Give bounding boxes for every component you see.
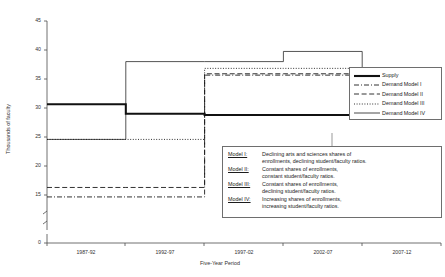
faculty-supply-demand-chart: 45 40 35 30 25 20 15 0 1987-92 1992-97 1…	[0, 0, 445, 277]
model-definitions-box: Model I: Declining arts and sciences sha…	[222, 146, 442, 218]
legend-swatch-solid-thick	[353, 72, 381, 80]
y-tick-45: 45	[27, 18, 41, 23]
note-text-model-ii: Constant shares of enrollments, constant…	[262, 166, 338, 181]
y-tick-25: 25	[27, 134, 41, 139]
legend-item-supply: Supply	[353, 71, 438, 80]
x-axis-title: Five-Year Period	[160, 260, 280, 266]
note-text-model-iv: Increasing shares of enrollments, increa…	[262, 196, 341, 211]
legend-label-demand-model-iv: Demand Model IV	[381, 111, 425, 116]
note-row-model-i: Model I: Declining arts and sciences sha…	[228, 151, 437, 166]
legend-label-demand-model-iii: Demand Model III	[381, 101, 425, 106]
y-axis-title: Thousands of faculty	[5, 93, 11, 165]
y-tick-15: 15	[27, 192, 41, 197]
x-tick-2002-07: 2002-07	[300, 250, 346, 255]
legend-label-demand-model-ii: Demand Model II	[381, 92, 423, 97]
legend-swatch-solid-thin	[353, 109, 381, 117]
x-tick-1987-92: 1987-92	[63, 250, 109, 255]
x-tick-2007-12: 2007-12	[379, 250, 425, 255]
note-key-model-i: Model I:	[228, 151, 262, 158]
note-line-1: Declining arts and sciences shares of	[262, 151, 367, 158]
legend-swatch-dashed	[353, 90, 381, 98]
y-axis-break-mark	[43, 211, 47, 224]
legend: Supply Demand Model I Demand Model II	[349, 67, 442, 120]
note-line-1: Increasing shares of enrollments,	[262, 196, 341, 203]
note-line-2: constant student/faculty ratios.	[262, 173, 338, 180]
plot-area	[0, 0, 445, 277]
note-key-model-ii: Model II:	[228, 166, 262, 173]
note-line-2: increasing student/faculty ratios.	[262, 203, 341, 210]
note-line-1: Constant shares of enrollments,	[262, 181, 338, 188]
note-line-2: enrollments, declining student/faculty r…	[262, 158, 367, 165]
legend-item-demand-model-ii: Demand Model II	[353, 90, 438, 99]
legend-item-demand-model-i: Demand Model I	[353, 80, 438, 89]
note-line-2: declining student/faculty ratios.	[262, 188, 338, 195]
y-tick-35: 35	[27, 76, 41, 81]
legend-item-demand-model-iv: Demand Model IV	[353, 109, 438, 118]
note-text-model-iii: Constant shares of enrollments, declinin…	[262, 181, 338, 196]
legend-label-demand-model-i: Demand Model I	[381, 82, 422, 87]
note-key-model-iv: Model IV:	[228, 196, 262, 203]
y-tick-20: 20	[27, 163, 41, 168]
note-text-model-i: Declining arts and sciences shares of en…	[262, 151, 367, 166]
x-tick-1992-97: 1992-97	[142, 250, 188, 255]
y-tick-marks	[44, 21, 47, 243]
note-line-1: Constant shares of enrollments,	[262, 166, 338, 173]
y-tick-30: 30	[27, 105, 41, 110]
legend-label-supply: Supply	[381, 73, 398, 78]
x-tick-marks	[47, 243, 441, 246]
legend-swatch-dash-dot	[353, 81, 381, 89]
y-tick-40: 40	[27, 47, 41, 52]
note-row-model-iv: Model IV: Increasing shares of enrollmen…	[228, 196, 437, 211]
note-row-model-iii: Model III: Constant shares of enrollment…	[228, 181, 437, 196]
note-row-model-ii: Model II: Constant shares of enrollments…	[228, 166, 437, 181]
x-tick-1997-02: 1997-02	[221, 250, 267, 255]
legend-swatch-dotted	[353, 100, 381, 108]
note-key-model-iii: Model III:	[228, 181, 262, 188]
legend-item-demand-model-iii: Demand Model III	[353, 99, 438, 108]
y-tick-0: 0	[27, 240, 41, 245]
